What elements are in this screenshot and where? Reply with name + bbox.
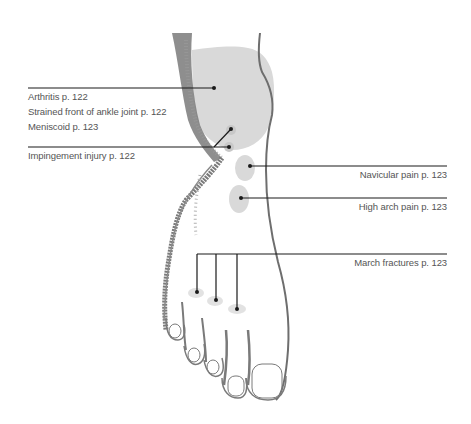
high-arch-dot xyxy=(239,196,243,200)
impingement-dot xyxy=(227,145,231,149)
label-march-fractures: March fractures p. 123 xyxy=(354,257,447,269)
march-dot-3 xyxy=(235,307,239,311)
navicular-area xyxy=(235,155,255,181)
label-high-arch: High arch pain p. 123 xyxy=(359,201,447,213)
toe-4-shade xyxy=(182,302,186,350)
foot-injury-diagram: Arthritis p. 122 Strained front of ankle… xyxy=(0,0,471,424)
toe-1-shade xyxy=(248,330,250,385)
toe-4 xyxy=(184,344,205,364)
label-impingement: Impingement injury p. 122 xyxy=(28,150,135,162)
arthritis-dot xyxy=(212,86,216,90)
high-arch-area xyxy=(229,185,249,213)
navicular-dot xyxy=(248,164,252,168)
meniscoid-dot xyxy=(229,127,233,131)
label-strained-ankle: Strained front of ankle joint p. 122 xyxy=(28,106,166,118)
label-navicular: Navicular pain p. 123 xyxy=(360,169,447,181)
label-meniscoid: Meniscoid p. 123 xyxy=(28,121,98,133)
label-arthritis: Arthritis p. 122 xyxy=(28,91,88,103)
march-dot-1 xyxy=(195,290,199,294)
march-dot-2 xyxy=(214,298,218,302)
toe-2-shade xyxy=(224,330,227,385)
